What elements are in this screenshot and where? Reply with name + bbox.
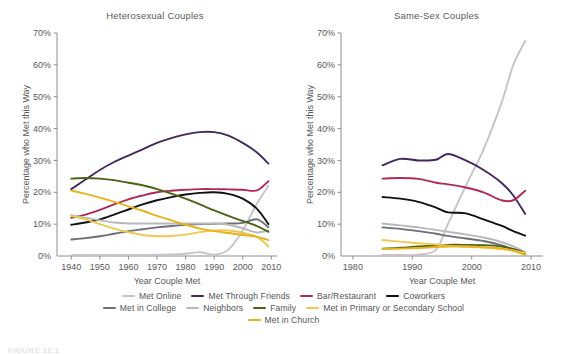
legend-item[interactable]: Coworkers: [386, 291, 445, 301]
legend-swatch-icon: [306, 307, 319, 309]
legend-swatch-icon: [386, 295, 399, 297]
legend-swatch-icon: [103, 307, 116, 309]
svg-text:2000: 2000: [462, 262, 482, 272]
svg-text:30%: 30%: [317, 156, 335, 166]
chart-plot-samesex: 0%10%20%30%40%50%60%70%1980199020002010Y…: [288, 0, 567, 286]
legend-item[interactable]: Met Through Friends: [191, 291, 290, 301]
legend-swatch-icon: [248, 319, 261, 321]
legend-label: Family: [270, 303, 296, 313]
legend-label: Coworkers: [403, 291, 445, 301]
legend-swatch-icon: [191, 295, 204, 297]
svg-text:1940: 1940: [61, 262, 81, 272]
svg-text:30%: 30%: [33, 156, 51, 166]
legend-swatch-icon: [300, 295, 313, 297]
svg-text:40%: 40%: [317, 124, 335, 134]
legend-label: Met in Primary or Secondary School: [323, 303, 464, 313]
series-line: [383, 178, 526, 201]
legend-label: Met in Church: [265, 315, 320, 325]
legend-label: Met in College: [120, 303, 176, 313]
legend-item[interactable]: Family: [253, 303, 296, 313]
svg-text:20%: 20%: [317, 187, 335, 197]
svg-text:Percentage who Met this Way: Percentage who Met this Way: [21, 84, 31, 204]
charts-row: Heterosexual Couples 0%10%20%30%40%50%60…: [0, 0, 567, 286]
svg-text:60%: 60%: [33, 60, 51, 70]
legend-row: Met in CollegeNeighborsFamilyMet in Prim…: [0, 302, 567, 314]
svg-text:1970: 1970: [147, 262, 167, 272]
chart-legend: Met OnlineMet Through FriendsBar/Restaur…: [0, 290, 567, 330]
legend-label: Neighbors: [203, 303, 243, 313]
legend-swatch-icon: [186, 307, 199, 309]
svg-text:1980: 1980: [176, 262, 196, 272]
svg-text:50%: 50%: [317, 92, 335, 102]
svg-text:1960: 1960: [118, 262, 138, 272]
svg-text:1950: 1950: [90, 262, 110, 272]
series-line: [383, 227, 526, 254]
svg-text:70%: 70%: [33, 28, 51, 38]
svg-text:20%: 20%: [33, 187, 51, 197]
legend-swatch-icon: [253, 307, 266, 309]
svg-text:Year Couple Met: Year Couple Met: [409, 276, 476, 286]
legend-label: Met Through Friends: [208, 291, 290, 301]
svg-text:2000: 2000: [233, 262, 253, 272]
svg-text:1990: 1990: [402, 262, 422, 272]
svg-text:0%: 0%: [38, 251, 51, 261]
legend-item[interactable]: Met in College: [103, 303, 176, 313]
legend-row: Met OnlineMet Through FriendsBar/Restaur…: [0, 290, 567, 302]
svg-text:60%: 60%: [317, 60, 335, 70]
legend-label: Met Online: [139, 291, 182, 301]
svg-text:70%: 70%: [317, 28, 335, 38]
legend-row: Met in Church: [0, 314, 567, 326]
svg-text:10%: 10%: [317, 219, 335, 229]
figure-caption: FIGURE 12.1: [8, 346, 59, 354]
legend-item[interactable]: Bar/Restaurant: [300, 291, 376, 301]
legend-item[interactable]: Neighbors: [186, 303, 243, 313]
svg-text:0%: 0%: [322, 251, 335, 261]
svg-text:2010: 2010: [261, 262, 281, 272]
legend-item[interactable]: Met in Primary or Secondary School: [306, 303, 464, 313]
legend-swatch-icon: [122, 295, 135, 297]
svg-text:Year Couple Met: Year Couple Met: [134, 276, 201, 286]
legend-item[interactable]: Met in Church: [248, 315, 320, 325]
legend-item[interactable]: Met Online: [122, 291, 182, 301]
series-line: [383, 154, 526, 214]
svg-text:1990: 1990: [204, 262, 224, 272]
svg-text:Percentage who Met this Way: Percentage who Met this Way: [305, 84, 315, 204]
figure-container: Heterosexual Couples 0%10%20%30%40%50%60…: [0, 0, 567, 354]
svg-text:50%: 50%: [33, 92, 51, 102]
svg-text:10%: 10%: [33, 219, 51, 229]
chart-panel-samesex: Same-Sex Couples 0%10%20%30%40%50%60%70%…: [288, 0, 567, 286]
series-line: [71, 181, 268, 218]
series-line: [383, 41, 526, 255]
chart-panel-heterosexual: Heterosexual Couples 0%10%20%30%40%50%60…: [0, 0, 288, 286]
svg-text:2010: 2010: [521, 262, 541, 272]
series-line: [71, 132, 268, 189]
legend-label: Bar/Restaurant: [317, 291, 376, 301]
chart-plot-heterosexual: 0%10%20%30%40%50%60%70%19401950196019701…: [0, 0, 288, 286]
svg-text:40%: 40%: [33, 124, 51, 134]
svg-text:1980: 1980: [343, 262, 363, 272]
